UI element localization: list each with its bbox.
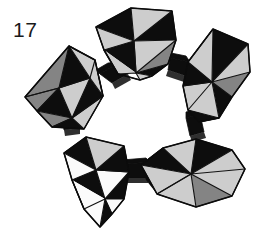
polyhedron-bottom-right — [141, 139, 245, 207]
polyhedron-left — [25, 46, 103, 129]
polyhedra-ring-illustration — [0, 0, 258, 244]
polyhedron-top-right — [183, 29, 250, 122]
figure-container: 17 — [0, 0, 258, 244]
polyhedron-bottom-left — [64, 137, 129, 227]
